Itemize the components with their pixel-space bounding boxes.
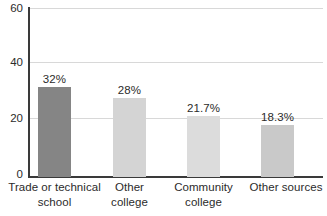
bar-group-other-sources[interactable]: 18.3% <box>261 0 294 177</box>
bar-group-trade-or-technical-school[interactable]: 32% <box>38 0 71 177</box>
category-label-3-line1: Other sources <box>250 181 323 193</box>
bar-value-3: 18.3% <box>261 111 294 123</box>
category-label-0-line1: Trade or technical <box>8 181 101 193</box>
bar-rect-2[interactable] <box>187 116 220 177</box>
category-label-other-sources: Other sources <box>246 180 326 195</box>
category-label-trade-or-technical-school: Trade or technical school <box>8 180 101 209</box>
category-label-1-line2: college <box>105 195 154 210</box>
category-label-2-line2: college <box>169 195 238 210</box>
x-axis-category-labels: Trade or technical school Other college … <box>0 180 327 216</box>
category-label-2-line1: Community <box>174 181 233 193</box>
category-label-other-college: Other college <box>105 180 154 209</box>
bar-rect-0[interactable] <box>38 87 71 177</box>
bar-value-1: 28% <box>118 84 141 96</box>
bars-layer: 32% 28% 21.7% 18.3% <box>0 0 327 177</box>
category-label-0-line2: school <box>8 195 101 210</box>
bar-group-other-college[interactable]: 28% <box>113 0 146 177</box>
category-label-1-line1: Other <box>115 181 144 193</box>
bar-rect-3[interactable] <box>261 125 294 177</box>
bar-rect-1[interactable] <box>113 98 146 177</box>
bar-value-2: 21.7% <box>187 102 220 114</box>
bar-value-0: 32% <box>43 73 66 85</box>
category-label-community-college: Community college <box>169 180 238 209</box>
bar-group-community-college[interactable]: 21.7% <box>187 0 220 177</box>
bar-chart: 60 40 20 0 32% 28% 21.7% 18.3% Trade or … <box>0 0 327 216</box>
